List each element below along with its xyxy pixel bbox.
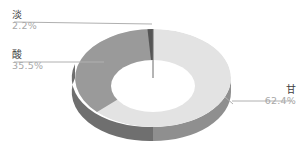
slice-label-san: 酸 35.5% (12, 49, 43, 71)
slice-label-dan: 淡 2.2% (12, 9, 37, 31)
donut-chart: 淡 2.2% 酸 35.5% 甘 62.4% (0, 0, 306, 158)
slice-label-san-percent: 35.5% (12, 60, 43, 71)
donut-chart-graphic (0, 0, 306, 158)
slice-label-kan-category: 甘 (265, 84, 296, 95)
slice-label-san-category: 酸 (12, 49, 43, 60)
slice-label-kan-percent: 62.4% (265, 95, 296, 106)
slice-label-dan-percent: 2.2% (12, 20, 37, 31)
donut-top-face (75, 29, 231, 127)
slice-label-dan-category: 淡 (12, 9, 37, 20)
slice-label-kan: 甘 62.4% (265, 84, 296, 106)
